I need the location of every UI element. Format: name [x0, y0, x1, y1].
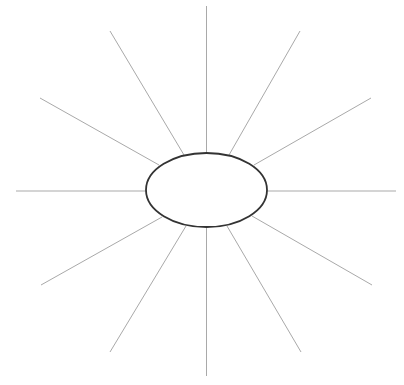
spoke-top-left-shallow [40, 98, 159, 165]
spider-map-diagram [0, 0, 404, 385]
spoke-bottom-left-steep [110, 226, 186, 352]
spoke-bottom-right-shallow [252, 216, 372, 285]
center-oval [146, 153, 267, 227]
spoke-top-right-shallow [254, 98, 371, 165]
spoke-bottom-right-steep [227, 226, 301, 352]
spoke-top-right-steep [229, 31, 300, 155]
spoke-bottom-left-shallow [41, 217, 162, 285]
spoke-top-left-steep [110, 31, 184, 155]
